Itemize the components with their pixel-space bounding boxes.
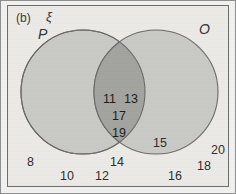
element-14: 14 <box>110 156 124 169</box>
venn-diagram-figure: (b) ξ P O 11 13 17 19 15 8 10 12 14 16 1… <box>0 0 236 194</box>
element-18: 18 <box>197 160 211 173</box>
element-16: 16 <box>168 170 182 183</box>
element-10: 10 <box>60 170 74 183</box>
element-12: 12 <box>95 170 109 183</box>
universal-set-symbol: ξ <box>46 10 52 23</box>
element-8: 8 <box>27 156 34 169</box>
part-label: (b) <box>16 12 31 24</box>
element-19: 19 <box>112 127 126 140</box>
set-label-o: O <box>199 22 210 36</box>
element-13: 13 <box>124 93 138 106</box>
element-20: 20 <box>211 144 225 157</box>
element-15: 15 <box>153 137 167 150</box>
element-11: 11 <box>103 93 116 106</box>
set-label-p: P <box>38 27 47 41</box>
element-17: 17 <box>112 110 126 123</box>
